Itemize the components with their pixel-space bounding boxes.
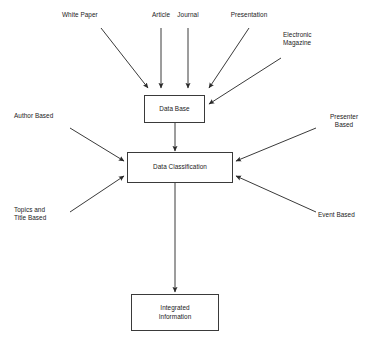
- connector-presenter-based-to-data-classification: [236, 128, 316, 161]
- connector-author-based-to-data-classification: [70, 128, 124, 161]
- node-data-classification[interactable]: Data Classification: [127, 152, 233, 183]
- source-label-topics-title-based: Topics and Title Based: [14, 206, 76, 222]
- source-label-presenter-based: Presenter Based: [317, 113, 371, 129]
- source-label-author-based: Author Based: [14, 112, 76, 120]
- node-data-base-label: Data Base: [159, 105, 189, 113]
- connector-event-based-to-data-classification: [236, 176, 316, 212]
- source-label-journal: Journal: [170, 11, 206, 19]
- connector-electronic-magazine-to-data-base: [209, 58, 281, 104]
- source-label-electronic-magazine: Electronic Magazine: [283, 31, 339, 47]
- source-label-event-based: Event Based: [318, 211, 380, 219]
- diagram-canvas: White Paper Article Journal Presentation…: [0, 0, 384, 350]
- node-integrated-information[interactable]: Integrated Information: [131, 294, 219, 331]
- node-integrated-information-label: Integrated Information: [159, 304, 192, 321]
- connector-topics-title-based-to-data-classification: [70, 176, 124, 212]
- connector-white-paper-to-data-base: [101, 28, 148, 88]
- node-data-classification-label: Data Classification: [153, 163, 207, 171]
- source-label-presentation: Presentation: [218, 11, 280, 19]
- connector-presentation-to-data-base: [209, 28, 249, 88]
- source-label-white-paper: White Paper: [62, 11, 122, 19]
- node-data-base[interactable]: Data Base: [144, 95, 205, 123]
